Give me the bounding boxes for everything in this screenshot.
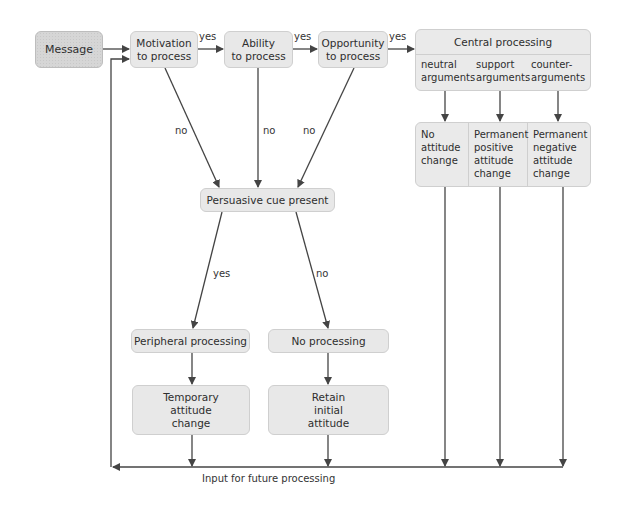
no-attitude-change: No attitude change — [416, 123, 469, 186]
central-processing-title: Central processing — [416, 30, 590, 55]
neutral-arguments: neutral arguments — [421, 58, 476, 84]
edge-label-opportunity-yes: yes — [389, 31, 406, 42]
motivation-node: Motivation to process — [130, 31, 198, 68]
message-node: Message — [35, 31, 103, 68]
temporary-change-label: Temporary attitude change — [163, 391, 219, 430]
edge-label-ability-yes: yes — [294, 31, 311, 42]
edge-label-opportunity-no: no — [303, 125, 315, 136]
message-label: Message — [45, 43, 93, 56]
no-processing-label: No processing — [291, 335, 365, 348]
ability-node: Ability to process — [224, 31, 293, 68]
counter-arguments: counter- arguments — [531, 58, 586, 84]
persuasive-cue-node: Persuasive cue present — [200, 188, 335, 212]
ability-label: Ability to process — [231, 37, 285, 63]
edge-label-motivation-no: no — [175, 125, 187, 136]
peripheral-processing-label: Peripheral processing — [134, 335, 247, 348]
edge-label-cue-no: no — [316, 268, 328, 279]
edge-label-cue-yes: yes — [213, 268, 230, 279]
edge-label-ability-no: no — [263, 125, 275, 136]
support-arguments: support arguments — [476, 58, 531, 84]
central-outcomes-node: No attitude change Permanent positive at… — [415, 122, 591, 187]
opportunity-node: Opportunity to process — [318, 31, 388, 68]
retain-attitude-label: Retain initial attitude — [308, 391, 349, 430]
opportunity-label: Opportunity to process — [321, 37, 384, 63]
feedback-label: Input for future processing — [202, 473, 335, 484]
permanent-positive-change: Permanent positive attitude change — [469, 123, 528, 186]
no-processing-node: No processing — [268, 329, 389, 353]
temporary-change-node: Temporary attitude change — [132, 385, 250, 435]
motivation-label: Motivation to process — [136, 37, 191, 63]
central-processing-node: Central processing neutral arguments sup… — [415, 29, 591, 91]
persuasive-cue-label: Persuasive cue present — [207, 194, 329, 207]
retain-attitude-node: Retain initial attitude — [268, 385, 389, 435]
permanent-negative-change: Permanent negative attitude change — [528, 123, 590, 186]
edge-label-motivation-yes: yes — [199, 31, 216, 42]
peripheral-processing-node: Peripheral processing — [131, 329, 250, 353]
